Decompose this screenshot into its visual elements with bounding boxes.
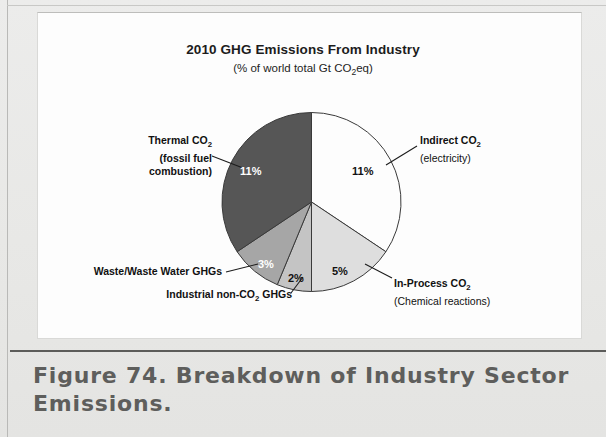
slice-label-industrial-non-co2-post: GHGs — [259, 288, 292, 300]
slice-label-thermal-co2-sub: 2 — [208, 140, 212, 149]
slice-label-in-process-co2-sub: 2 — [466, 283, 470, 292]
chart-subtitle-post: eq) — [356, 62, 373, 74]
slice-label-indirect-co2-line2: (electricity) — [420, 152, 481, 166]
chart-subtitle-pre: (% of world total Gt CO — [233, 62, 351, 74]
slice-value-indirect-co2: 11% — [352, 165, 373, 177]
slice-label-industrial-non-co2-text: Industrial non-CO — [166, 288, 255, 300]
slice-value-waste-water-ghgs: 3% — [258, 258, 274, 270]
figure-caption: Figure 74. Breakdown of Industry Sector … — [33, 362, 593, 418]
slice-label-thermal-co2-line2: (fossil fuel — [0, 152, 212, 166]
slice-label-industrial-non-co2: Industrial non-CO2 GHGs — [0, 288, 292, 306]
chart-title: 2010 GHG Emissions From Industry — [0, 42, 606, 57]
slice-label-indirect-co2-text: Indirect CO — [420, 134, 477, 146]
slice-label-in-process-co2: In-Process CO2 (Chemical reactions) — [394, 277, 490, 308]
chart-subtitle: (% of world total Gt CO2eq) — [0, 62, 606, 77]
slice-value-industrial-non-co2: 2% — [288, 272, 304, 284]
slice-label-indirect-co2-sub: 2 — [477, 140, 481, 149]
slice-value-in-process-co2: 5% — [332, 265, 348, 277]
caption-divider — [10, 350, 606, 352]
slice-label-in-process-co2-line2: (Chemical reactions) — [394, 295, 490, 309]
slice-label-thermal-co2: Thermal CO2 (fossil fuel combustion) — [0, 134, 216, 179]
slice-label-waste-water-ghgs-text: Waste/Waste Water GHGs — [0, 265, 222, 279]
slice-value-thermal-co2: 11% — [240, 165, 261, 177]
scanned-page: 2010 GHG Emissions From Industry (% of w… — [0, 0, 606, 437]
slice-label-indirect-co2: Indirect CO2 (electricity) — [420, 134, 481, 165]
slice-label-thermal-co2-text: Thermal CO — [148, 134, 208, 146]
page-border-top — [7, 5, 606, 6]
slice-label-thermal-co2-line3: combustion) — [0, 165, 212, 179]
slice-label-waste-water-ghgs: Waste/Waste Water GHGs — [0, 265, 226, 279]
slice-label-in-process-co2-text: In-Process CO — [394, 277, 466, 289]
